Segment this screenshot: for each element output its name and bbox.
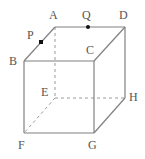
vertex-label-h: H [129, 91, 138, 103]
vertex-label-g: G [88, 139, 97, 151]
edge-e-f-hidden [24, 98, 55, 133]
vertex-label-b: B [9, 55, 17, 67]
vertex-label-f: F [18, 139, 25, 151]
vertex-label-a: A [49, 9, 58, 21]
cube-diagram: ADBCEHFGPQ [0, 0, 145, 159]
vertex-label-c: C [86, 44, 94, 56]
point-marker-q [86, 25, 90, 29]
marked-point-group [39, 25, 90, 44]
vertex-label-d: D [119, 9, 128, 21]
point-label-p: P [27, 29, 34, 41]
edge-d-c [94, 27, 125, 61]
vertex-label-e: E [41, 86, 48, 98]
edge-g-h [94, 98, 125, 133]
cube-svg [0, 0, 145, 159]
point-marker-p [39, 40, 43, 44]
point-label-q: Q [82, 9, 91, 21]
